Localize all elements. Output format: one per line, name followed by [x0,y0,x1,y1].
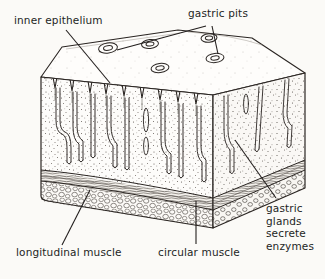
label-gastric-glands-line-3: secrete [266,227,322,240]
label-inner-epithelium: inner epithelium [14,14,103,27]
label-gastric-pits: gastric pits [188,7,248,20]
label-gastric-glands-line-4: enzymes [266,240,322,253]
label-gastric-glands-line-1: gastric [266,202,322,215]
label-circular-muscle: circular muscle [158,246,240,259]
stomach-wall-diagram: inner epithelium gastric pits longitudin… [0,0,325,279]
label-longitudinal-muscle: longitudinal muscle [16,246,122,259]
label-gastric-glands-line-2: glands [266,215,322,228]
label-gastric-glands: gastric glands secrete enzymes [266,202,322,252]
